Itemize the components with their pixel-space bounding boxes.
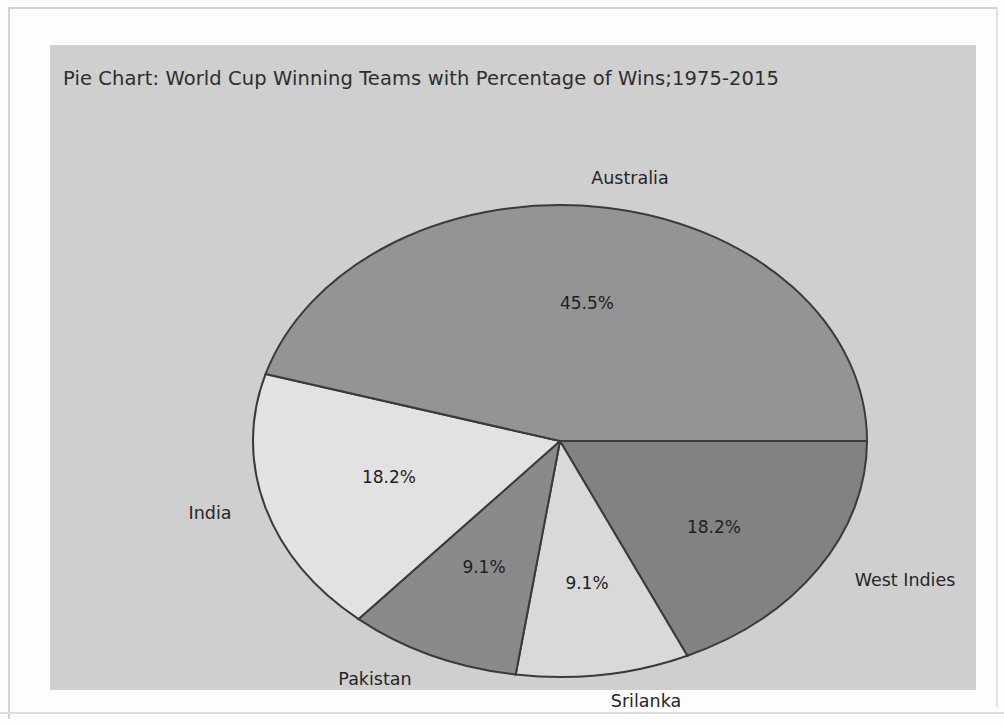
pie-percentage-label-india: 18.2% (362, 467, 416, 487)
pie-category-label-australia: Australia (591, 168, 668, 188)
pie-percentage-label-pakistan: 9.1% (462, 557, 505, 577)
chart-figure-panel: Pie Chart: World Cup Winning Teams with … (50, 45, 976, 690)
pie-chart-svg (50, 45, 976, 690)
page-border-right (996, 7, 998, 707)
pie-plot-area: 18.2%9.1%9.1%18.2%45.5% West IndiesSrila… (50, 45, 976, 690)
pie-percentage-label-srilanka: 9.1% (565, 573, 608, 593)
scanned-page: Pie Chart: World Cup Winning Teams with … (0, 0, 1004, 726)
pie-percentage-label-australia: 45.5% (560, 293, 614, 313)
pie-category-label-srilanka: Srilanka (611, 691, 681, 711)
pie-percentage-label-west-indies: 18.2% (687, 517, 741, 537)
pie-category-label-pakistan: Pakistan (338, 669, 411, 689)
pie-slice-group (253, 205, 867, 677)
page-border-bottom (0, 712, 1004, 714)
pie-category-label-india: India (189, 503, 232, 523)
pie-category-label-west-indies: West Indies (855, 570, 956, 590)
